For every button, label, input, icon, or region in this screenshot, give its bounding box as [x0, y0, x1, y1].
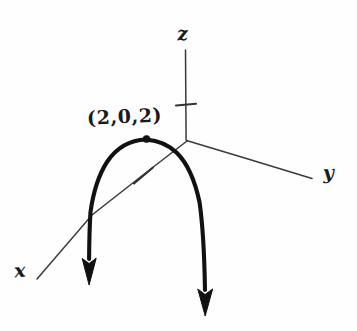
- sketch-drawing: [0, 0, 357, 331]
- y-axis-line: [187, 141, 313, 179]
- right-branch-arrowhead: [198, 289, 213, 316]
- parabola-left-branch: [89, 140, 146, 260]
- point-marker-dot: [143, 135, 150, 142]
- z-axis-tick: [176, 104, 196, 106]
- y-axis-label: y: [322, 161, 335, 184]
- point-coordinate-label: (2,0,2): [87, 103, 163, 128]
- x-axis-tick: [134, 168, 153, 184]
- left-branch-arrowhead: [82, 258, 96, 285]
- figure-canvas: z y x (2,0,2): [0, 0, 357, 331]
- z-axis-label: z: [176, 22, 189, 45]
- x-axis-label: x: [13, 259, 27, 282]
- z-axis-line: [186, 50, 187, 140]
- parabola-right-branch: [146, 140, 205, 291]
- x-axis-line: [37, 141, 187, 279]
